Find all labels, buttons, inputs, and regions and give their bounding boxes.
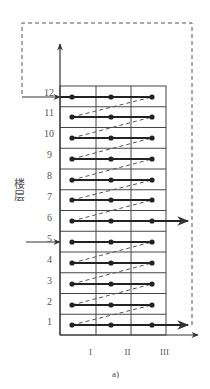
section-label-I: I — [89, 347, 92, 357]
work-point-dot — [69, 94, 74, 99]
work-point-dot — [69, 322, 74, 327]
y-axis-label: 楼层 — [10, 178, 26, 202]
work-point-dot — [149, 260, 154, 265]
work-point-dot — [69, 135, 74, 140]
dashed-link — [72, 284, 152, 305]
work-point-dot — [69, 156, 74, 161]
floor-label-12: 12 — [40, 87, 54, 98]
work-point-dot — [149, 94, 154, 99]
work-point-dot — [149, 302, 154, 307]
section-label-III: III — [160, 347, 169, 357]
section-label-II: II — [125, 347, 131, 357]
work-point-dot — [149, 197, 154, 202]
work-point-dot — [108, 260, 113, 265]
floor-label-4: 4 — [38, 254, 52, 265]
work-point-dot — [149, 156, 154, 161]
work-point-dot — [149, 239, 154, 244]
dashed-link — [72, 305, 152, 325]
work-point-dot — [108, 218, 113, 223]
work-point-dot — [108, 135, 113, 140]
work-point-dot — [69, 197, 74, 202]
work-point-dot — [69, 114, 74, 119]
work-point-dot — [69, 239, 74, 244]
work-point-dot — [149, 177, 154, 182]
figure-caption: a) — [112, 369, 119, 379]
floor-label-3: 3 — [38, 275, 52, 286]
work-point-dot — [108, 114, 113, 119]
floor-label-5: 5 — [38, 233, 52, 244]
floor-label-8: 8 — [38, 170, 52, 181]
work-point-dot — [149, 135, 154, 140]
work-point-dot — [108, 156, 113, 161]
work-point-dot — [108, 302, 113, 307]
work-point-dot — [69, 302, 74, 307]
floor-label-1: 1 — [38, 316, 52, 327]
work-point-dot — [69, 281, 74, 286]
dashed-link — [72, 263, 152, 284]
work-point-dot — [108, 239, 113, 244]
floor-label-6: 6 — [38, 212, 52, 223]
work-point-dot — [69, 260, 74, 265]
floor-label-11: 11 — [40, 107, 54, 118]
work-point-dot — [69, 218, 74, 223]
floor-label-10: 10 — [40, 128, 54, 139]
floor-label-9: 9 — [38, 149, 52, 160]
work-point-dot — [149, 281, 154, 286]
work-point-dot — [149, 218, 154, 223]
work-sequence-diagram — [0, 0, 210, 389]
work-point-dot — [108, 177, 113, 182]
work-point-dot — [108, 197, 113, 202]
work-point-dot — [149, 114, 154, 119]
work-point-dot — [108, 281, 113, 286]
work-point-dot — [108, 94, 113, 99]
floor-label-7: 7 — [38, 191, 52, 202]
work-point-dot — [149, 322, 154, 327]
work-point-dot — [69, 177, 74, 182]
floor-label-2: 2 — [38, 296, 52, 307]
work-point-dot — [108, 322, 113, 327]
